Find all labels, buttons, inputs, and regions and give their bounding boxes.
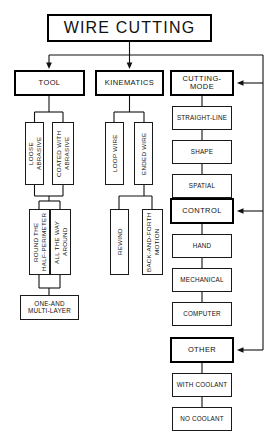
node-one-and-multi-layer[interactable]: ONE-AND MULTI-LAYER [20,295,79,320]
branch-node-other[interactable]: OTHER [170,337,234,363]
node-mechanical[interactable]: MECHANICAL [172,268,232,292]
branch-node-cutting-mode[interactable]: CUTTING-MODE [170,70,234,96]
node-loose-abrasive[interactable]: LOOSE ABRASIVE [25,122,44,185]
branch-node-control[interactable]: CONTROL [170,198,234,224]
wire-cutting-diagram: WIRE CUTTING TOOL KINEMATICS CUTTING-MOD… [0,0,273,432]
node-rewind[interactable]: REWIND [110,209,129,275]
branch-node-tool[interactable]: TOOL [14,70,85,96]
node-hand[interactable]: HAND [172,234,232,258]
node-shape[interactable]: SHAPE [172,140,232,164]
node-loop-wire[interactable]: LOOP WIRE [105,122,124,185]
node-spatial[interactable]: SPATIAL [172,174,232,198]
node-straight-line[interactable]: STRAIGHT-LINE [172,106,232,130]
node-computer[interactable]: COMPUTER [172,302,232,326]
node-round-the-half-perimeter[interactable]: ROUND THE HALF-PERIMETER [29,209,50,275]
node-all-the-way-around[interactable]: ALL THE WAY AROUND [50,209,71,275]
root-node-wire-cutting[interactable]: WIRE CUTTING [47,14,212,42]
node-coated-with-abrasive[interactable]: COATED WITH ABRASIVE [52,122,74,185]
branch-node-kinematics[interactable]: KINEMATICS [95,70,164,96]
node-no-coolant[interactable]: NO COOLANT [172,407,232,431]
node-with-coolant[interactable]: WITH COOLANT [172,373,232,397]
node-back-and-forth-motion[interactable]: BACK-AND-FORTH MOTION [142,209,163,275]
node-ended-wire[interactable]: ENDED WIRE [134,122,153,185]
